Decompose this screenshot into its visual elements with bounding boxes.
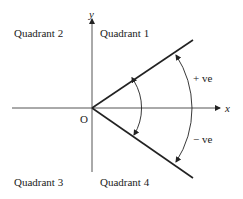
positive-ray [92,40,193,108]
negative-angle-arc [176,108,192,162]
quadrant-3-label: Quadrant 3 [14,176,64,188]
origin-label: O [80,113,88,125]
angle-quadrant-diagram: y x O Quadrant 1 Quadrant 2 Quadrant 3 Q… [0,0,243,199]
y-axis-label: y [88,8,94,20]
negative-ray [92,108,193,178]
quadrant-2-label: Quadrant 2 [14,27,63,39]
quadrant-1-label: Quadrant 1 [100,27,149,39]
positive-angle-label: + ve [193,72,212,84]
x-axis-label: x [224,102,230,114]
quadrant-4-label: Quadrant 4 [100,176,150,188]
positive-angle-arc [176,55,192,108]
negative-angle-label: − ve [193,133,212,145]
